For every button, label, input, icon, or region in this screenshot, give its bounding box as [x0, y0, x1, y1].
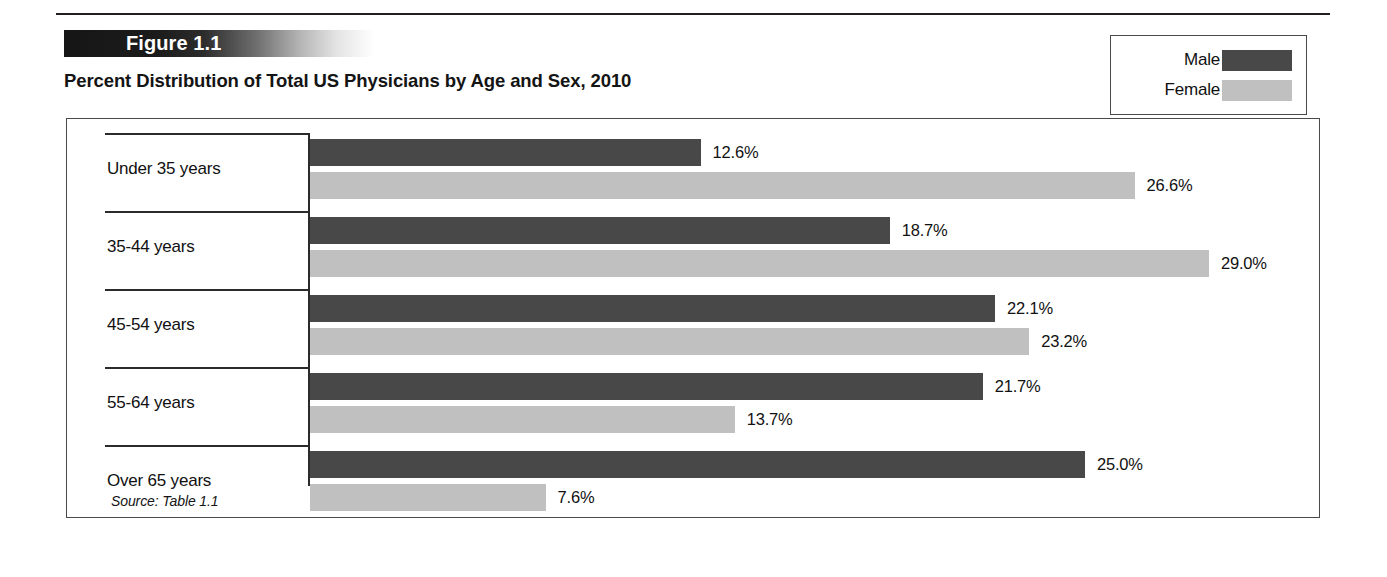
figure-page: Figure 1.1 Percent Distribution of Total… — [0, 0, 1387, 577]
bar-value-male: 18.7% — [902, 217, 948, 244]
legend-label-female: Female — [1165, 77, 1221, 103]
bar-value-female: 29.0% — [1221, 250, 1267, 277]
category-label: Over 65 years — [107, 471, 211, 491]
category-tick-rule — [105, 367, 310, 369]
bar-value-female: 26.6% — [1147, 172, 1193, 199]
bar-group: 35-44 years18.7%29.0% — [67, 211, 1319, 289]
bar-female — [310, 328, 1029, 355]
category-label: 55-64 years — [107, 393, 195, 413]
bar-male — [310, 139, 701, 166]
category-tick-rule — [105, 445, 310, 447]
category-tick-rule — [105, 133, 310, 135]
bar-male — [310, 451, 1085, 478]
bar-group: 55-64 years21.7%13.7% — [67, 367, 1319, 445]
bar-value-female: 13.7% — [747, 406, 793, 433]
bar-male — [310, 295, 995, 322]
bar-group: 45-54 years22.1%23.2% — [67, 289, 1319, 367]
legend-label-male: Male — [1184, 47, 1220, 73]
bar-value-male: 25.0% — [1097, 451, 1143, 478]
bar-value-male: 22.1% — [1007, 295, 1053, 322]
bar-female — [310, 250, 1209, 277]
bar-female — [310, 484, 546, 511]
bar-value-female: 23.2% — [1041, 328, 1087, 355]
chart-frame: Under 35 years12.6%26.6%35-44 years18.7%… — [66, 118, 1320, 518]
figure-title: Percent Distribution of Total US Physici… — [64, 70, 631, 92]
source-note: Source: Table 1.1 — [111, 493, 219, 509]
category-label: 45-54 years — [107, 315, 195, 335]
category-tick-rule — [105, 211, 310, 213]
bar-female — [310, 172, 1135, 199]
bar-value-male: 12.6% — [713, 139, 759, 166]
bar-group: Over 65 years25.0%7.6% — [67, 445, 1319, 523]
chart-legend: Male Female — [1110, 35, 1307, 115]
legend-swatch-male — [1222, 50, 1292, 71]
bar-group: Under 35 years12.6%26.6% — [67, 133, 1319, 211]
legend-item-female: Female — [1111, 77, 1306, 103]
category-label: 35-44 years — [107, 237, 195, 257]
bar-value-male: 21.7% — [995, 373, 1041, 400]
bar-value-female: 7.6% — [558, 484, 595, 511]
legend-item-male: Male — [1111, 47, 1306, 73]
bar-female — [310, 406, 735, 433]
bar-male — [310, 373, 983, 400]
bar-male — [310, 217, 890, 244]
category-tick-rule — [105, 289, 310, 291]
plot-area: Under 35 years12.6%26.6%35-44 years18.7%… — [67, 119, 1319, 517]
legend-swatch-female — [1222, 80, 1292, 101]
figure-number-label: Figure 1.1 — [126, 32, 221, 55]
category-label: Under 35 years — [107, 159, 220, 179]
top-divider-rule — [56, 13, 1330, 15]
